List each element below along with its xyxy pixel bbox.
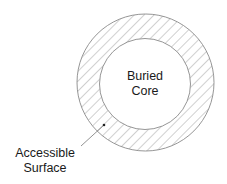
buried-core-label-line2: Core <box>131 84 158 98</box>
buried-core-label-line1: Buried <box>127 69 163 83</box>
leader-line <box>81 125 104 146</box>
surface-core-diagram: Buried Core Accessible Surface <box>0 0 227 184</box>
accessible-surface-label-line1: Accessible <box>15 146 75 160</box>
leader-dot <box>103 124 106 127</box>
accessible-surface-label-line2: Surface <box>23 161 66 175</box>
